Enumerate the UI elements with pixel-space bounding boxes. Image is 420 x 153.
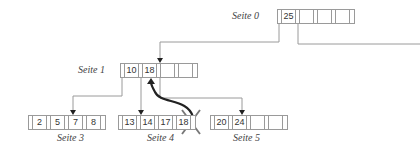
key-cell: 20: [215, 116, 229, 129]
key-cell: 18: [143, 64, 157, 77]
page-seite5: 20 24: [210, 115, 288, 130]
edge-seite1-seite3: [73, 78, 122, 112]
page-label-seite3: Seite 3: [57, 132, 84, 143]
key-cell: 8: [87, 116, 101, 129]
key-cell: [336, 10, 350, 23]
key-cell: 25: [282, 10, 296, 23]
page-label-seite1: Seite 1: [78, 64, 105, 75]
key-cell: 13: [123, 116, 137, 129]
edge-seite1-seite5: [160, 78, 242, 112]
page-label-seite5: Seite 5: [233, 132, 260, 143]
key-cell: [269, 116, 283, 129]
page-seite0: 25: [277, 9, 355, 24]
key-cell: [179, 64, 193, 77]
key-cell: 5: [51, 116, 65, 129]
edge-seite0-seite1: [160, 24, 279, 60]
page-label-seite0: Seite 0: [232, 10, 259, 21]
edge-seite0-right: [298, 24, 420, 44]
key-cell: 24: [233, 116, 247, 129]
deleted-key-cell: 18: [177, 116, 191, 129]
key-cell: 7: [69, 116, 83, 129]
page-seite4: 13 14 17 18: [118, 115, 196, 130]
key-cell: 2: [33, 116, 47, 129]
key-cell: 10: [125, 64, 139, 77]
page-seite3: 2 5 7 8: [28, 115, 106, 130]
key-cell: [251, 116, 265, 129]
key-cell: [300, 10, 314, 23]
key-cell: 14: [141, 116, 155, 129]
key-cell: 17: [159, 116, 173, 129]
move-arrow: [151, 82, 193, 117]
edges-layer: [0, 0, 420, 153]
arrowhead-icon: [147, 78, 155, 84]
key-cell: [161, 64, 175, 77]
page-label-seite4: Seite 4: [147, 132, 174, 143]
page-seite1: 10 18: [120, 63, 198, 78]
key-cell: [318, 10, 332, 23]
